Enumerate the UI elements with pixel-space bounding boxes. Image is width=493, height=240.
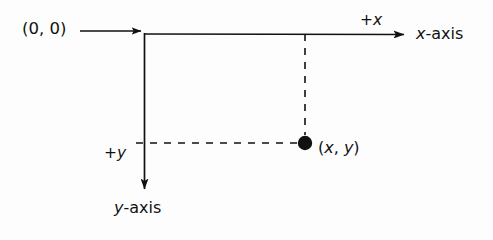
point-separator: ,	[334, 138, 344, 157]
coordinate-system-diagram: (0, 0) +x x-axis +y y-axis (x, y)	[0, 0, 493, 240]
plus-sign-x: +	[360, 11, 373, 29]
positive-y-direction-label: +y	[104, 146, 126, 162]
paren-close: )	[353, 138, 359, 157]
variable-x: x	[373, 11, 382, 29]
point-marker	[298, 136, 312, 150]
point-variable-x: x	[324, 138, 333, 157]
y-axis-suffix: -axis	[123, 198, 161, 217]
variable-y: y	[117, 144, 126, 162]
point-coordinate-label: (x, y)	[318, 140, 360, 156]
plus-sign-y: +	[104, 144, 117, 162]
y-axis-label: y-axis	[114, 200, 161, 216]
x-axis-line	[144, 34, 404, 35]
point-variable-y: y	[344, 138, 353, 157]
x-axis-suffix: -axis	[425, 24, 463, 43]
positive-x-direction-label: +x	[360, 13, 382, 29]
origin-label: (0, 0)	[22, 21, 66, 38]
x-axis-label: x-axis	[416, 26, 463, 42]
